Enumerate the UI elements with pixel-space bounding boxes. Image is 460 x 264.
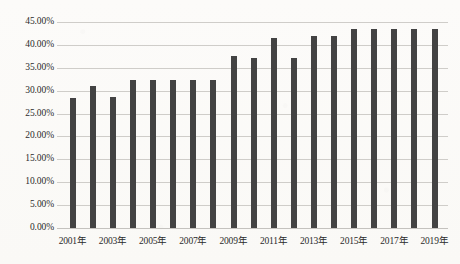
y-axis-tick-label: 5.00% [0, 199, 54, 209]
x-axis-tick-label: 2019年 [421, 233, 449, 247]
x-axis-tick-label: 2013年 [300, 233, 328, 247]
y-axis-tick-label: 25.00% [0, 108, 54, 118]
y-axis-tick-label: 40.00% [0, 39, 54, 49]
y-axis-tick-label: 10.00% [0, 176, 54, 186]
bar [291, 58, 297, 228]
bar [110, 97, 116, 228]
gridline-0.00 [57, 228, 448, 229]
bar [311, 36, 317, 228]
bar [371, 29, 377, 228]
bar [130, 80, 136, 228]
bar [231, 56, 237, 228]
x-axis-tick-label: 2011年 [260, 233, 288, 247]
y-axis-labels: 45.00%40.00%35.00%30.00%25.00%20.00%15.0… [0, 22, 54, 228]
bar [391, 29, 397, 228]
y-axis-tick-label: 15.00% [0, 153, 54, 163]
bar [190, 80, 196, 228]
y-axis-tick-label: 45.00% [0, 16, 54, 26]
x-axis-tick-label: 2001年 [59, 233, 87, 247]
x-axis-tick-label: 2015年 [340, 233, 368, 247]
x-axis-labels: 2001年2003年2005年2007年2009年2011年2013年2015年… [57, 233, 448, 255]
bars-layer [57, 22, 448, 228]
bar-chart: 45.00%40.00%35.00%30.00%25.00%20.00%15.0… [0, 0, 460, 264]
x-axis-tick-label: 2017年 [380, 233, 408, 247]
x-axis-tick-label: 2009年 [219, 233, 247, 247]
bar [150, 80, 156, 228]
bar [251, 58, 257, 228]
y-axis-tick-label: 0.00% [0, 222, 54, 232]
y-axis-tick-label: 20.00% [0, 130, 54, 140]
bar [351, 29, 357, 228]
bar [271, 38, 277, 228]
bar [210, 80, 216, 228]
plot-area [57, 22, 448, 228]
x-axis-tick-label: 2007年 [179, 233, 207, 247]
bar [90, 86, 96, 228]
x-axis-tick-label: 2003年 [99, 233, 127, 247]
bar [170, 80, 176, 228]
bar [432, 29, 438, 228]
y-axis-tick-label: 35.00% [0, 62, 54, 72]
bar [331, 36, 337, 228]
y-axis-tick-label: 30.00% [0, 85, 54, 95]
bar [411, 29, 417, 228]
bar [70, 98, 76, 228]
x-axis-tick-label: 2005年 [139, 233, 167, 247]
